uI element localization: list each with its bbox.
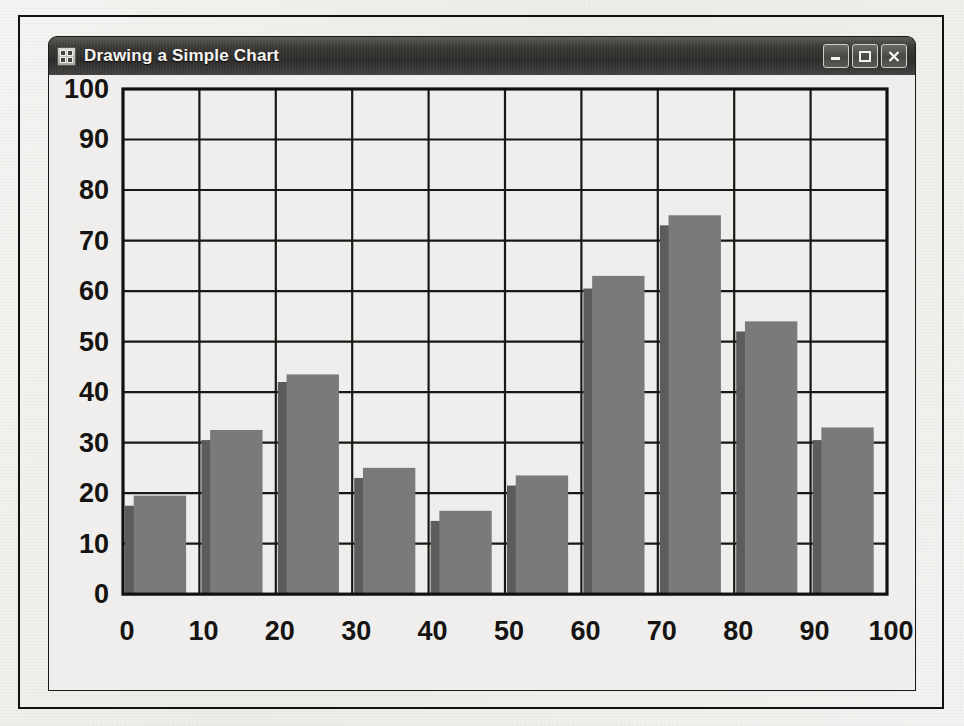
y-tick-label: 10	[79, 529, 109, 559]
x-tick-label: 30	[341, 616, 371, 646]
bar	[669, 215, 721, 594]
minimize-button[interactable]	[823, 44, 849, 68]
book-page: Drawing a Simple Chart	[0, 0, 964, 726]
bar-group	[507, 475, 568, 594]
window-controls	[823, 44, 907, 68]
y-tick-label: 30	[79, 428, 109, 458]
bar-group	[125, 496, 186, 595]
x-tick-label: 60	[570, 616, 600, 646]
y-tick-label: 0	[94, 579, 109, 609]
y-tick-label: 50	[79, 327, 109, 357]
bar	[592, 276, 644, 594]
close-button[interactable]	[881, 44, 907, 68]
x-tick-label: 20	[265, 616, 295, 646]
window-client-area: 0102030405060708090100 01020304050607080…	[48, 75, 916, 691]
application-window: Drawing a Simple Chart	[48, 36, 916, 690]
y-tick-label: 60	[79, 276, 109, 306]
y-tick-label: 70	[79, 226, 109, 256]
x-tick-label: 70	[647, 616, 677, 646]
bar-chart: 0102030405060708090100 01020304050607080…	[49, 75, 915, 690]
bar-group	[354, 468, 415, 594]
x-tick-label: 0	[119, 616, 134, 646]
y-tick-label: 90	[79, 125, 109, 155]
chart-canvas: 0102030405060708090100 01020304050607080…	[49, 75, 915, 690]
bar	[134, 496, 186, 595]
y-tick-label: 80	[79, 175, 109, 205]
window-title: Drawing a Simple Chart	[84, 46, 823, 66]
bar	[516, 475, 568, 594]
bar-group	[813, 427, 874, 594]
x-tick-label: 50	[494, 616, 524, 646]
bar-group	[660, 215, 721, 594]
bar	[210, 430, 262, 594]
application-chart-icon	[57, 47, 76, 66]
window-title-bar[interactable]: Drawing a Simple Chart	[48, 36, 916, 75]
y-tick-label: 40	[79, 377, 109, 407]
bar	[821, 427, 873, 594]
x-tick-label: 100	[868, 616, 913, 646]
bar-group	[431, 511, 492, 594]
bar-group	[736, 321, 797, 594]
bar-group	[278, 374, 339, 594]
y-tick-label: 100	[64, 75, 109, 104]
bar-group	[583, 276, 644, 594]
x-tick-label: 40	[418, 616, 448, 646]
bar	[287, 374, 339, 594]
x-tick-label: 10	[188, 616, 218, 646]
y-tick-label: 20	[79, 478, 109, 508]
bar	[439, 511, 491, 594]
bar-group	[201, 430, 262, 594]
maximize-button[interactable]	[852, 44, 878, 68]
bar	[363, 468, 415, 594]
bar	[745, 321, 797, 594]
x-tick-label: 80	[723, 616, 753, 646]
x-tick-label: 90	[800, 616, 830, 646]
